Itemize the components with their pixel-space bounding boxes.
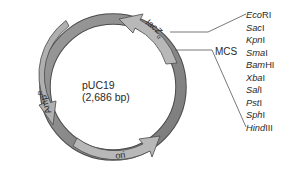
plasmid-size: (2,686 bp) — [82, 91, 130, 103]
enzyme-item: PstI — [246, 98, 262, 108]
enzyme-item: SacI — [246, 23, 265, 33]
enzyme-item: SphI — [246, 110, 265, 120]
ori-label: ori — [115, 149, 126, 160]
plasmid-name: pUC19 — [82, 79, 115, 91]
enzyme-item: SalI — [246, 85, 262, 95]
enzyme-item: BamHI — [246, 60, 274, 70]
restriction-site-list: EcoRI SacI KpnI SmaI BamHI XbaI SalI Pst… — [245, 10, 274, 133]
plasmid-map: AmpR ori lacZα pUC19 (2,686 bp) MCS EcoR… — [0, 0, 291, 174]
enzyme-item: EcoRI — [246, 10, 271, 20]
enzyme-item: KpnI — [246, 35, 265, 45]
enzyme-item: XbaI — [245, 73, 265, 83]
enzyme-item: HindIII — [246, 123, 273, 133]
mcs-label: MCS — [215, 46, 238, 57]
enzyme-item: SmaI — [246, 48, 268, 58]
